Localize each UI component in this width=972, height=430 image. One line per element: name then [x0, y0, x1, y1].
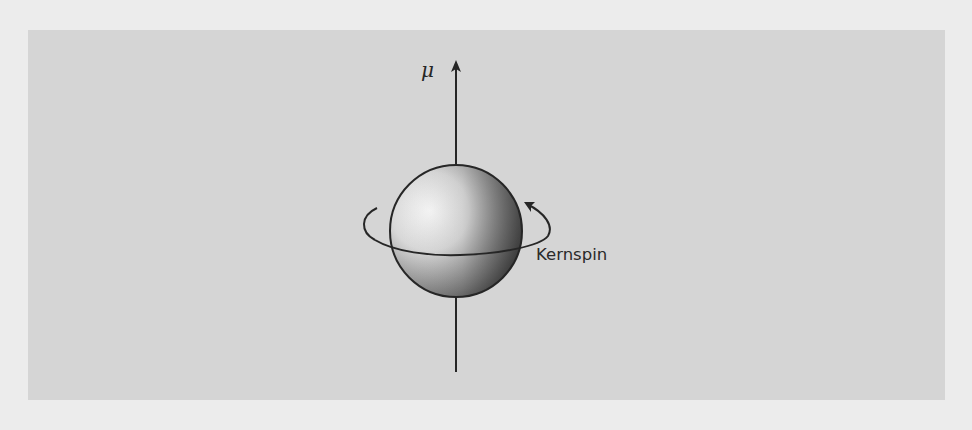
nucleus-sphere [390, 165, 522, 297]
spin-ring-back [364, 208, 377, 240]
spin-label: Kernspin [536, 245, 607, 264]
nuclear-spin-figure [0, 0, 972, 430]
magnetic-moment-arrow [451, 60, 461, 165]
magnetic-moment-label: μ [421, 58, 434, 82]
